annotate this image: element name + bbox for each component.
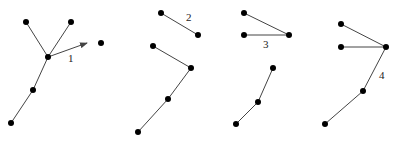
edge-a-c xyxy=(341,24,386,47)
diagram-canvas: 1 2 3 4 xyxy=(0,0,398,143)
panel-4: 4 xyxy=(322,21,389,127)
edge-d-e xyxy=(168,68,191,99)
node-a xyxy=(23,19,29,25)
panel-2: 2 xyxy=(135,10,201,135)
node-a xyxy=(241,10,247,16)
node-b xyxy=(68,19,74,25)
node-a xyxy=(338,21,344,27)
edge-c-d xyxy=(33,57,48,90)
node-e xyxy=(255,99,261,105)
node-f xyxy=(135,129,141,135)
node-e xyxy=(322,121,328,127)
panel-3: 3 xyxy=(233,10,292,127)
panel-label: 1 xyxy=(68,52,74,64)
edge-a-c xyxy=(244,13,289,35)
node-c xyxy=(45,54,51,60)
panel-label: 2 xyxy=(186,11,192,23)
panel-label: 3 xyxy=(263,38,269,50)
node-b xyxy=(195,32,201,38)
node-c xyxy=(286,32,292,38)
node-b xyxy=(241,32,247,38)
panel-label: 4 xyxy=(379,69,385,81)
edge-a-b xyxy=(161,13,198,35)
node-d xyxy=(30,87,36,93)
node-c xyxy=(150,43,156,49)
edge-a-c xyxy=(26,22,48,57)
node-f xyxy=(233,121,239,127)
graph-diagram: 1 2 3 4 xyxy=(0,0,398,143)
edge-d-e xyxy=(258,68,273,102)
edge-e-f xyxy=(236,102,258,124)
node-d xyxy=(360,88,366,94)
node-b xyxy=(338,44,344,50)
node-f xyxy=(98,40,104,46)
node-e xyxy=(8,120,14,126)
edge-c-d xyxy=(153,46,191,68)
panel-1: 1 xyxy=(8,19,104,126)
node-a xyxy=(158,10,164,16)
edge-e-f xyxy=(138,99,168,132)
node-d xyxy=(188,65,194,71)
node-c xyxy=(383,44,389,50)
node-d xyxy=(270,65,276,71)
node-e xyxy=(165,96,171,102)
edge-d-e xyxy=(325,91,363,124)
edge-d-e xyxy=(11,90,33,123)
